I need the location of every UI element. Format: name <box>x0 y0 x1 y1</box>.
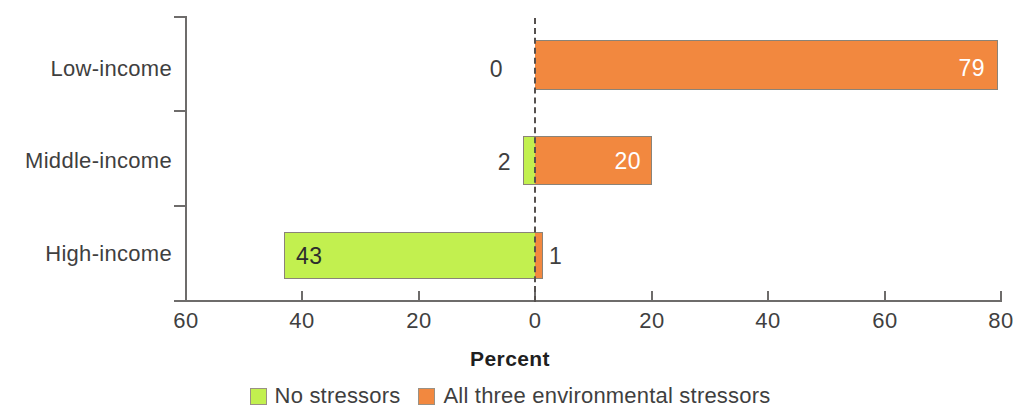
bar-value-high-income-no-stressors: 43 <box>296 243 323 270</box>
bar-value-middle-income-all-three-stressors: 20 <box>614 148 641 175</box>
x-axis-title: Percent <box>0 347 1020 371</box>
bar-value-low-income-all-three-stressors: 79 <box>958 55 985 82</box>
bar-value-low-income-no-stressors: 0 <box>490 56 503 83</box>
bar-low-income-all-three-stressors <box>535 40 998 90</box>
bar-value-middle-income-no-stressors: 2 <box>498 149 511 176</box>
bar-high-income-all-three-stressors <box>535 232 543 279</box>
y-axis-line <box>185 16 187 301</box>
bar-value-high-income-all-three-stressors: 1 <box>549 243 562 270</box>
x-axis-tick-40 <box>767 291 769 301</box>
y-axis-label-middle-income: Middle-income <box>7 148 172 174</box>
x-axis-tick--60 <box>185 291 187 301</box>
y-axis-tick-bottom <box>174 300 185 302</box>
x-axis-tick-label--20: 20 <box>406 308 431 334</box>
x-axis-tick-label-20: 20 <box>639 308 664 334</box>
legend-label-no-stressors: No stressors <box>275 383 401 409</box>
y-axis-tick-boundary-1 <box>174 110 185 112</box>
x-axis-tick-label-40: 40 <box>755 308 780 334</box>
y-axis-tick-top <box>174 16 185 18</box>
chart-legend: No stressors All three environmental str… <box>0 383 1020 409</box>
x-axis-tick-label-80: 80 <box>988 308 1013 334</box>
x-axis-tick-label-60: 60 <box>872 308 897 334</box>
legend-item-no-stressors: No stressors <box>250 383 401 409</box>
y-axis-label-low-income: Low-income <box>7 56 172 82</box>
legend-item-all-three-stressors: All three environmental stressors <box>418 383 770 409</box>
x-axis-tick-20 <box>651 291 653 301</box>
legend-swatch-green-icon <box>250 388 267 405</box>
x-axis-tick-60 <box>884 291 886 301</box>
x-axis-tick-label--60: 60 <box>173 308 198 334</box>
legend-label-all-three-stressors: All three environmental stressors <box>443 383 770 409</box>
diverging-bar-chart: Low-income Middle-income High-income 60 … <box>0 0 1020 414</box>
zero-reference-line <box>534 18 536 302</box>
y-axis-label-high-income: High-income <box>7 241 172 267</box>
y-axis-tick-boundary-2 <box>174 205 185 207</box>
x-axis-tick--20 <box>418 291 420 301</box>
x-axis-tick-80 <box>1000 291 1002 301</box>
x-axis-tick--40 <box>301 291 303 301</box>
x-axis-tick-label--40: 40 <box>289 308 314 334</box>
x-axis-tick-label-0: 0 <box>529 308 542 334</box>
legend-swatch-orange-icon <box>418 388 435 405</box>
x-axis-line <box>185 300 1002 302</box>
